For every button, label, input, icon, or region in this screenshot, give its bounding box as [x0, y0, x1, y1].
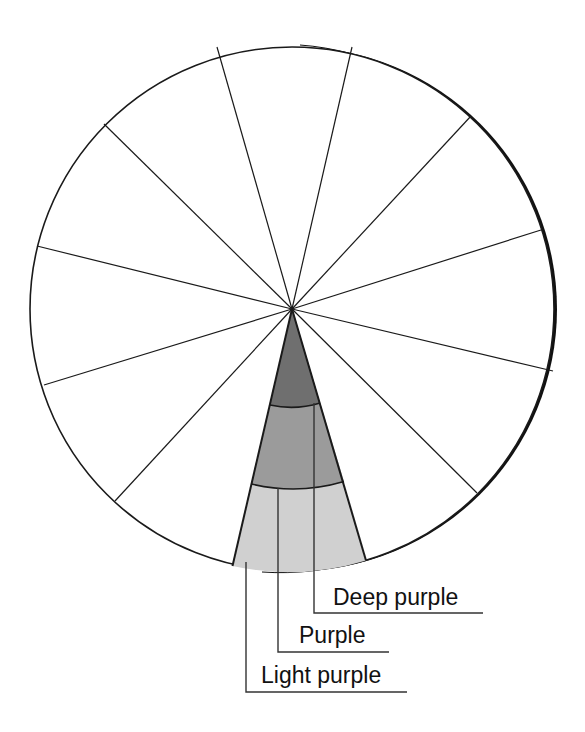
label-purple: Purple	[299, 622, 365, 648]
label-deep-purple: Deep purple	[333, 584, 458, 610]
color-wheel-diagram: Deep purple Purple Light purple	[0, 0, 585, 732]
label-light-purple: Light purple	[261, 662, 381, 688]
